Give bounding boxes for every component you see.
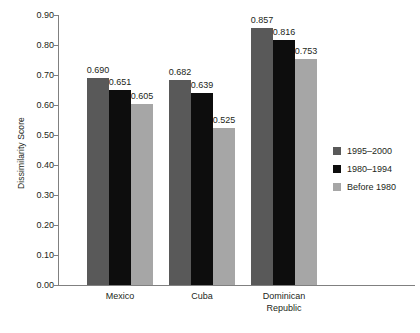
- y-axis-tick-mark: [54, 225, 58, 226]
- y-axis-tick-label: 0.90: [22, 11, 54, 20]
- x-axis-category-label-line: Republic: [229, 303, 339, 315]
- chart-legend: 1995–20001980–1994Before 1980: [333, 142, 396, 196]
- bar: [87, 78, 109, 285]
- bar-chart: Dissimilarity Score 0.000.100.200.300.40…: [0, 0, 420, 333]
- y-axis-tick-label: 0.30: [22, 191, 54, 200]
- legend-item: 1995–2000: [333, 142, 396, 160]
- bar-value-label: 0.857: [239, 16, 285, 25]
- y-axis-tick-label: 0.20: [22, 221, 54, 230]
- bar-value-label: 0.525: [201, 116, 247, 125]
- legend-item: Before 1980: [333, 178, 396, 196]
- y-axis-tick-mark: [54, 165, 58, 166]
- x-axis-category-label-line: Dominican: [229, 291, 339, 303]
- legend-swatch-icon: [333, 183, 341, 191]
- legend-label: 1995–2000: [347, 147, 392, 156]
- y-axis-tick-label: 0.70: [22, 71, 54, 80]
- y-axis-tick-mark: [54, 45, 58, 46]
- y-axis-tick-mark: [54, 105, 58, 106]
- x-axis-line: [58, 285, 415, 286]
- bar-group: 0.8570.8160.753: [251, 15, 317, 285]
- bar-value-label: 0.816: [261, 28, 307, 37]
- y-axis-tick-mark: [54, 135, 58, 136]
- bar-group: 0.6900.6510.605: [87, 15, 153, 285]
- y-axis-tick-mark: [54, 75, 58, 76]
- bar: [131, 104, 153, 286]
- legend-label: 1980–1994: [347, 165, 392, 174]
- bar-value-label: 0.605: [119, 92, 165, 101]
- bar: [273, 40, 295, 285]
- y-axis-tick-label: 0.60: [22, 101, 54, 110]
- bar: [213, 128, 235, 286]
- y-axis-tick-mark: [54, 195, 58, 196]
- y-axis-tick-label: 0.80: [22, 41, 54, 50]
- bar: [109, 90, 131, 285]
- legend-swatch-icon: [333, 165, 341, 173]
- bar-value-label: 0.690: [75, 66, 121, 75]
- bar-value-label: 0.753: [283, 47, 329, 56]
- y-axis-tick-labels: 0.000.100.200.300.400.500.600.700.800.90: [22, 15, 54, 285]
- y-axis-tick-label: 0.10: [22, 251, 54, 260]
- y-axis-tick-label: 0.40: [22, 161, 54, 170]
- bar-value-label: 0.651: [97, 78, 143, 87]
- bar: [295, 59, 317, 285]
- legend-item: 1980–1994: [333, 160, 396, 178]
- bar: [169, 80, 191, 285]
- y-axis-tick-label: 0.50: [22, 131, 54, 140]
- legend-label: Before 1980: [347, 183, 396, 192]
- legend-swatch-icon: [333, 147, 341, 155]
- y-axis-tick-mark: [54, 15, 58, 16]
- bar: [251, 28, 273, 285]
- y-axis-tick-label: 0.00: [22, 281, 54, 290]
- x-axis-category-label: DominicanRepublic: [229, 291, 339, 314]
- bar-group: 0.6820.6390.525: [169, 15, 235, 285]
- plot-area: 0.6900.6510.6050.6820.6390.5250.8570.816…: [59, 15, 310, 285]
- y-axis-tick-mark: [54, 255, 58, 256]
- bar-value-label: 0.639: [179, 81, 225, 90]
- y-axis-tick-mark: [54, 285, 58, 286]
- bar-value-label: 0.682: [157, 68, 203, 77]
